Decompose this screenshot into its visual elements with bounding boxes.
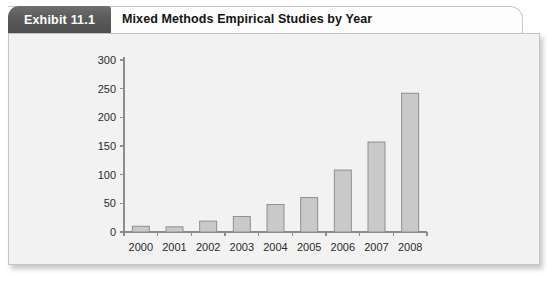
y-tick-label: 300	[98, 54, 116, 66]
x-tick-label-2005: 2005	[297, 241, 321, 253]
bar-2004	[267, 204, 284, 232]
bar-2002	[200, 221, 217, 232]
y-tick-label: 250	[98, 83, 116, 95]
x-tick-label-2000: 2000	[129, 241, 153, 253]
exhibit-title: Mixed Methods Empirical Studies by Year	[122, 12, 372, 26]
x-tick-label-2008: 2008	[398, 241, 422, 253]
y-tick-label: 200	[98, 111, 116, 123]
x-tick-label-2001: 2001	[162, 241, 186, 253]
exhibit-panel-body: 0501001502002503002000200120022003200420…	[8, 33, 540, 265]
x-tick-label-2004: 2004	[263, 241, 287, 253]
x-tick-label-2003: 2003	[230, 241, 254, 253]
bar-2006	[334, 170, 351, 232]
bar-2007	[368, 142, 385, 232]
exhibit-figure: Exhibit 11.1 Mixed Methods Empirical Stu…	[0, 0, 556, 282]
bar-2005	[301, 198, 318, 232]
x-tick-label-2006: 2006	[331, 241, 355, 253]
exhibit-number-label: Exhibit 11.1	[24, 13, 95, 27]
bar-chart: 0501001502002503002000200120022003200420…	[9, 34, 541, 266]
bar-2003	[233, 217, 250, 232]
x-tick-label-2007: 2007	[364, 241, 388, 253]
y-tick-label: 50	[104, 197, 116, 209]
y-tick-label: 100	[98, 169, 116, 181]
y-tick-label: 0	[110, 226, 116, 238]
y-tick-label: 150	[98, 140, 116, 152]
x-tick-label-2002: 2002	[196, 241, 220, 253]
bar-2001	[166, 227, 183, 232]
bar-2000	[132, 226, 149, 232]
chart-canvas: 0501001502002503002000200120022003200420…	[9, 34, 541, 266]
bar-2008	[402, 93, 419, 232]
exhibit-number-tab: Exhibit 11.1	[8, 6, 111, 33]
